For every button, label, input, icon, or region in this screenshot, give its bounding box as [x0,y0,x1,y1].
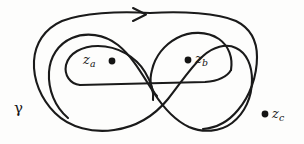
label-point-c-subscript: c [279,112,284,123]
label-point-a-subscript: a [90,58,96,69]
label-point-b: zb [195,52,208,67]
point-dot-zc [262,111,269,118]
outer-contour-top-right-path [150,12,257,129]
label-point-a-base: z [83,52,90,67]
point-dot-za [109,58,116,65]
label-contour-gamma: γ [14,101,23,116]
contour-diagram-figure: za zb zc γ [0,0,304,144]
inner-right-loop-path [151,33,232,96]
label-point-b-subscript: b [202,57,208,68]
label-point-b-base: z [195,51,202,66]
label-point-c: zc [272,107,284,122]
point-dot-zb [185,57,192,64]
label-point-c-base: z [272,106,279,121]
contour-svg-canvas [0,0,304,144]
label-point-a: za [83,53,96,68]
inner-left-loop-path [66,46,154,100]
inner-bridge-path [80,70,231,85]
direction-arrow-icon [133,8,146,21]
